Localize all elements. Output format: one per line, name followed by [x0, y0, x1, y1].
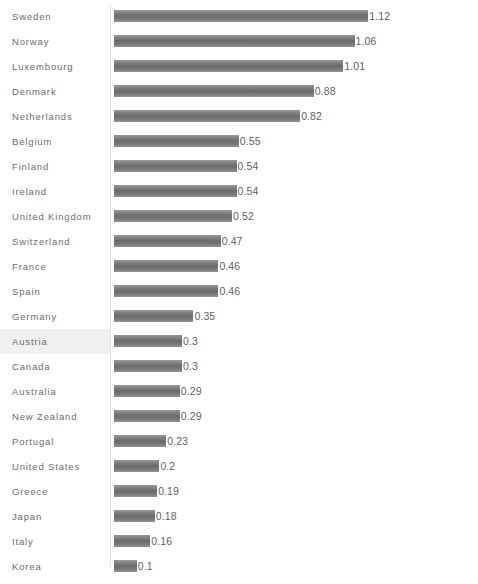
category-label: Germany: [12, 304, 57, 329]
category-label: Netherlands: [12, 104, 73, 129]
bar: [114, 385, 180, 397]
bar-value-label: 0.46: [219, 279, 240, 304]
bar-value-label: 0.2: [160, 454, 175, 479]
bar: [114, 85, 314, 97]
category-label: Italy: [12, 529, 34, 554]
bar-row: Japan0.18: [0, 504, 478, 529]
bar-row: Switzerland0.47: [0, 229, 478, 254]
bar-value-label: 0.3: [183, 329, 198, 354]
bar: [114, 160, 237, 172]
bar-row: Portugal0.23: [0, 429, 478, 454]
bar-value-label: 0.18: [156, 504, 177, 529]
bar: [114, 235, 221, 247]
bar-row: Norway1.06: [0, 29, 478, 54]
bar-value-label: 0.54: [238, 154, 259, 179]
bar: [114, 460, 159, 472]
bar-value-label: 0.3: [183, 354, 198, 379]
category-label: United Kingdom: [12, 204, 92, 229]
category-label: Norway: [12, 29, 49, 54]
bar-row: Italy0.16: [0, 529, 478, 554]
bar-row: Luxembourg1.01: [0, 54, 478, 79]
bar-value-label: 0.54: [238, 179, 259, 204]
bar-row: Netherlands0.82: [0, 104, 478, 129]
bar-chart: Sweden1.12Norway1.06Luxembourg1.01Denmar…: [0, 0, 478, 584]
bar: [114, 10, 368, 22]
bar-value-label: 1.01: [344, 54, 365, 79]
category-label: New Zealand: [12, 404, 77, 429]
bar-row: Spain0.46: [0, 279, 478, 304]
bar-row: New Zealand0.29: [0, 404, 478, 429]
bar: [114, 185, 237, 197]
chart-caption: [0, 568, 478, 584]
category-label: United States: [12, 454, 80, 479]
plot-area: Sweden1.12Norway1.06Luxembourg1.01Denmar…: [0, 0, 478, 568]
bar: [114, 210, 232, 222]
bar-row: Ireland0.54: [0, 179, 478, 204]
bar: [114, 110, 300, 122]
bar-row: Denmark0.88: [0, 79, 478, 104]
bar-value-label: 0.82: [301, 104, 322, 129]
category-label: Portugal: [12, 429, 54, 454]
bar-row: Canada0.3: [0, 354, 478, 379]
bar-value-label: 0.55: [240, 129, 261, 154]
category-label: Belgium: [12, 129, 52, 154]
bar: [114, 435, 166, 447]
bar: [114, 360, 182, 372]
bar-row: France0.46: [0, 254, 478, 279]
bar-value-label: 0.47: [222, 229, 243, 254]
bar-row: Finland0.54: [0, 154, 478, 179]
bar-row: Sweden1.12: [0, 4, 478, 29]
category-label: Canada: [12, 354, 50, 379]
category-label: Austria: [12, 329, 48, 354]
category-label: Japan: [12, 504, 42, 529]
bar-row: Greece0.19: [0, 479, 478, 504]
bar-row: Belgium0.55: [0, 129, 478, 154]
category-label: Ireland: [12, 179, 47, 204]
bar: [114, 135, 239, 147]
bar-value-label: 1.06: [356, 29, 377, 54]
bar-value-label: 0.29: [181, 379, 202, 404]
category-label: France: [12, 254, 47, 279]
bar: [114, 35, 355, 47]
bar-value-label: 0.88: [315, 79, 336, 104]
bar-value-label: 1.12: [369, 4, 390, 29]
bar-row: Germany0.35: [0, 304, 478, 329]
bar: [114, 510, 155, 522]
bar: [114, 260, 218, 272]
bar: [114, 310, 193, 322]
bar: [114, 285, 218, 297]
category-label: Luxembourg: [12, 54, 73, 79]
bar: [114, 410, 180, 422]
bar: [114, 535, 150, 547]
bar: [114, 335, 182, 347]
bar-value-label: 0.29: [181, 404, 202, 429]
bar-value-label: 0.35: [194, 304, 215, 329]
category-label: Greece: [12, 479, 48, 504]
bar-row: Austria0.3: [0, 329, 478, 354]
category-label: Switzerland: [12, 229, 70, 254]
bar-row: United Kingdom0.52: [0, 204, 478, 229]
category-label: Denmark: [12, 79, 57, 104]
category-label: Sweden: [12, 4, 51, 29]
bar-value-label: 0.46: [219, 254, 240, 279]
bar-value-label: 0.19: [158, 479, 179, 504]
bar-row: United States0.2: [0, 454, 478, 479]
bar-value-label: 0.23: [167, 429, 188, 454]
category-label: Spain: [12, 279, 41, 304]
category-label: Finland: [12, 154, 49, 179]
bar-value-label: 0.16: [151, 529, 172, 554]
category-label: Australia: [12, 379, 57, 404]
bar: [114, 60, 343, 72]
bar: [114, 485, 157, 497]
bar-value-label: 0.52: [233, 204, 254, 229]
bar-row: Australia0.29: [0, 379, 478, 404]
